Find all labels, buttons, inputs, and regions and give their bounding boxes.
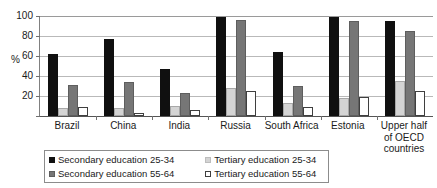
bar	[339, 98, 349, 116]
bar	[273, 52, 283, 116]
legend-swatch-icon	[49, 157, 55, 163]
x-axis-label: Upper halfof OECDcountries	[376, 120, 432, 155]
x-axis-label-line: of OECD	[376, 132, 432, 144]
y-tick-label: 100	[16, 11, 33, 21]
legend-row: Secondary education 55-64 Tertiary educa…	[49, 167, 324, 181]
bar	[114, 108, 124, 116]
y-tick-label: 80	[22, 31, 33, 41]
x-axis-label-line: Brazil	[39, 120, 95, 132]
bar	[246, 91, 256, 116]
bars	[104, 16, 144, 116]
bar	[124, 82, 134, 116]
bar-chart: % 100 80 60 40 20 BrazilChinaIndiaRussia…	[0, 0, 437, 188]
bar	[134, 113, 144, 116]
y-tick-label: 40	[22, 71, 33, 81]
bar	[160, 69, 170, 116]
bar-group	[96, 16, 152, 116]
x-axis-label-line: India	[151, 120, 207, 132]
bar-group	[208, 16, 264, 116]
bar	[226, 88, 236, 116]
bar	[359, 97, 369, 116]
x-axis-label-line: countries	[376, 143, 432, 155]
bar	[283, 103, 293, 116]
bar	[405, 31, 415, 116]
bar-groups	[40, 16, 433, 116]
legend-label: Secondary education 25-34	[58, 155, 174, 165]
legend-item-secondary-2534: Secondary education 25-34	[49, 155, 205, 165]
bar-group	[40, 16, 96, 116]
bar-group	[377, 16, 433, 116]
bars	[48, 16, 88, 116]
bar	[104, 39, 114, 116]
x-axis-label-line: Russia	[207, 120, 263, 132]
legend-swatch-icon	[205, 171, 211, 177]
bar	[190, 110, 200, 116]
legend-row: Secondary education 25-34 Tertiary educa…	[49, 153, 324, 167]
bar	[349, 21, 359, 116]
bar	[48, 54, 58, 116]
x-axis-label-line: Upper half	[376, 120, 432, 132]
bar	[216, 17, 226, 116]
legend-swatch-icon	[205, 157, 211, 163]
bar-group	[321, 16, 377, 116]
legend-swatch-icon	[49, 171, 55, 177]
x-axis-label-line: Estonia	[320, 120, 376, 132]
y-tick-label: 20	[22, 91, 33, 101]
bar	[293, 86, 303, 116]
bar	[395, 81, 405, 116]
bar	[236, 20, 246, 116]
legend-item-secondary-5564: Secondary education 55-64	[49, 169, 205, 179]
bar	[329, 17, 339, 116]
bars	[273, 16, 313, 116]
bar	[303, 107, 313, 116]
legend-label: Tertiary education 25-34	[214, 155, 316, 165]
y-tick-label: 60	[22, 51, 33, 61]
bar	[180, 93, 190, 116]
bar-group	[152, 16, 208, 116]
bars	[160, 16, 200, 116]
bars	[329, 16, 369, 116]
legend-label: Tertiary education 55-64	[214, 169, 316, 179]
legend-label: Secondary education 55-64	[58, 169, 174, 179]
bar	[68, 85, 78, 116]
bar	[78, 107, 88, 116]
legend-item-tertiary-2534: Tertiary education 25-34	[205, 155, 324, 165]
bar-group	[265, 16, 321, 116]
y-tick-mark	[36, 116, 40, 117]
x-axis-label-line: China	[95, 120, 151, 132]
chart-legend: Secondary education 25-34 Tertiary educa…	[44, 150, 329, 183]
bar	[170, 106, 180, 116]
bar	[58, 108, 68, 116]
bars	[385, 16, 425, 116]
bars	[216, 16, 256, 116]
plot-area	[39, 16, 433, 117]
bar	[415, 91, 425, 116]
bar	[385, 21, 395, 116]
y-axis-tick-labels: 100 80 60 40 20	[0, 10, 37, 122]
x-axis-label-line: South Africa	[264, 120, 320, 132]
legend-item-tertiary-5564: Tertiary education 55-64	[205, 169, 324, 179]
